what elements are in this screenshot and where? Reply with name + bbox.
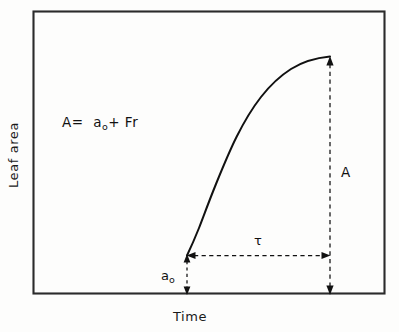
amplitude-label: A: [341, 164, 350, 180]
a0-label: ao: [161, 268, 175, 283]
model-equation-annotation: A= ao+ Fr: [62, 114, 138, 130]
equation-a0-subscript: o: [102, 121, 108, 132]
equation-equals-sign: =: [72, 114, 89, 130]
equation-remainder: + Fr: [108, 114, 138, 130]
equation-a0-base: a: [93, 114, 102, 130]
tau-label: τ: [254, 233, 262, 248]
y-axis-label: Leaf area: [6, 122, 21, 188]
figure-background: [0, 0, 399, 332]
equation-variable-a: A: [62, 114, 72, 130]
a0-label-subscript: o: [169, 274, 175, 285]
a0-label-base: a: [161, 268, 169, 283]
leaf-area-growth-figure: [0, 0, 399, 332]
x-axis-label: Time: [173, 309, 207, 324]
